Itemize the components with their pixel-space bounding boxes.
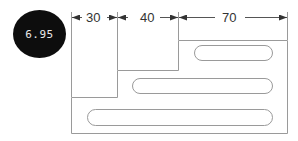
dimension-70: 70	[222, 10, 236, 25]
extension-lines	[72, 12, 288, 97]
technical-drawing: 30 40 70	[0, 0, 298, 141]
top-slot	[195, 46, 273, 61]
plate-outline	[72, 41, 288, 134]
dimension-40: 40	[140, 10, 154, 25]
dimension-30: 30	[86, 10, 100, 25]
bottom-slot	[88, 110, 273, 126]
middle-slot	[133, 79, 273, 94]
